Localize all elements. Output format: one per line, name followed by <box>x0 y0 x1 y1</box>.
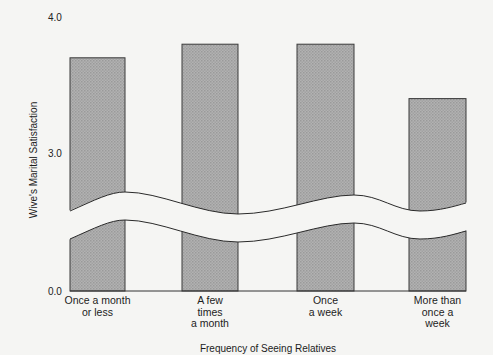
bar <box>409 99 466 291</box>
x-tick-label: Oncea week <box>309 294 343 318</box>
x-tick-labels: Once a monthor lessA fewtimesa monthOnce… <box>65 294 462 329</box>
bar-chart: 4.0 3.0 0.0 Wive's Marital Satisfaction … <box>0 0 493 355</box>
x-tick-label: More thanonce aweek <box>414 294 461 329</box>
x-tick-label: A fewtimesa month <box>191 294 229 329</box>
y-tick-3: 3.0 <box>48 148 62 159</box>
x-axis-title: Frequency of Seeing Relatives <box>200 343 336 354</box>
y-tick-0: 0.0 <box>48 286 62 297</box>
bar <box>297 44 354 291</box>
bar <box>70 58 125 291</box>
x-tick-label: Once a monthor less <box>65 294 131 318</box>
y-axis-title: Wive's Marital Satisfaction <box>28 102 39 218</box>
break-band <box>68 192 468 242</box>
y-tick-4: 4.0 <box>48 12 62 23</box>
axis-break <box>68 192 468 242</box>
bar <box>182 44 238 291</box>
bars <box>70 44 466 291</box>
